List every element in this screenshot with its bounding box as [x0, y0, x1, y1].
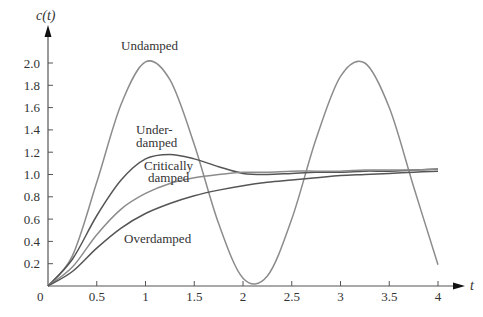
y-tick-label: 1.0 [24, 167, 40, 182]
x-tick-label: 1.5 [186, 289, 202, 304]
label-undamped: Undamped [121, 38, 179, 53]
curve-overdamped [48, 171, 438, 286]
curves [48, 61, 438, 286]
x-tick-label: 0.5 [89, 289, 105, 304]
x-tick-label: 4 [435, 289, 442, 304]
y-tick-label: 2.0 [24, 56, 40, 71]
y-tick-label: 0.2 [24, 256, 40, 271]
label-overdamped: Overdamped [124, 231, 192, 246]
x-axis-label: t [470, 278, 475, 293]
step-response-chart: c(t) t 0 0.511.522.533.54 0.20.40.60.81.… [0, 0, 483, 317]
origin-label: 0 [37, 289, 44, 304]
x-tick-label: 3 [337, 289, 344, 304]
y-tick-label: 1.8 [24, 78, 40, 93]
x-axis-arrow-icon [453, 283, 465, 290]
y-tick-label: 0.8 [24, 189, 40, 204]
y-ticks: 0.20.40.60.81.01.21.41.61.82.0 [24, 56, 53, 272]
y-tick-label: 1.4 [24, 122, 41, 137]
y-tick-label: 1.6 [24, 100, 41, 115]
x-tick-label: 2.5 [284, 289, 300, 304]
x-ticks: 0.511.522.533.54 [89, 281, 442, 304]
label-underdamped-2: damped [136, 135, 178, 150]
y-tick-label: 1.2 [24, 145, 40, 160]
label-critically-2: damped [148, 170, 190, 185]
y-axis-label: c(t) [36, 8, 56, 24]
y-tick-label: 0.6 [24, 212, 41, 227]
axes: c(t) t 0 [36, 8, 475, 304]
y-tick-label: 0.4 [24, 234, 41, 249]
y-axis-arrow-icon [45, 25, 52, 37]
curve-critically-damped [48, 169, 438, 286]
x-tick-label: 2 [240, 289, 247, 304]
x-tick-label: 3.5 [381, 289, 397, 304]
curve-labels: Undamped Under- damped Critically damped… [121, 38, 194, 246]
x-tick-label: 1 [142, 289, 149, 304]
